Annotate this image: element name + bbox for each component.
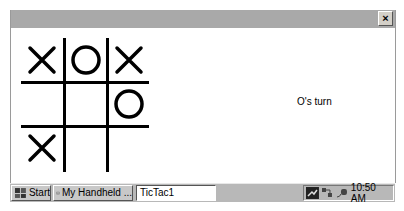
x-mark-icon <box>27 45 57 75</box>
handheld-label: My Handheld ... <box>62 186 132 200</box>
clock: 10:50 AM <box>351 182 393 204</box>
o-mark-icon <box>70 44 102 76</box>
app-window: × O's turn <box>10 10 396 183</box>
taskbar: Start My Handheld ... TicTac1 10:50 AM <box>10 183 395 202</box>
cell-1-0[interactable] <box>22 84 62 124</box>
handheld-icon <box>56 187 60 199</box>
start-button[interactable]: Start <box>11 185 51 201</box>
cell-0-1[interactable] <box>66 40 106 80</box>
start-label: Start <box>29 186 50 200</box>
cell-1-2[interactable] <box>109 84 149 124</box>
sync-icon[interactable] <box>321 187 334 199</box>
system-tray: 10:50 AM <box>303 185 394 201</box>
o-mark-icon <box>113 88 145 120</box>
start-flag-icon <box>14 187 27 199</box>
cell-1-1[interactable] <box>66 84 106 124</box>
my-handheld-button[interactable]: My Handheld ... <box>53 185 133 201</box>
x-mark-icon <box>114 45 144 75</box>
tic-tac-toe-board <box>21 38 149 172</box>
cell-2-2[interactable] <box>109 128 149 168</box>
cell-0-0[interactable] <box>22 40 62 80</box>
power-icon[interactable] <box>336 187 349 199</box>
cell-0-2[interactable] <box>109 40 149 80</box>
turn-status: O's turn <box>297 96 332 107</box>
cell-2-0[interactable] <box>22 128 62 168</box>
title-bar: × <box>11 10 395 28</box>
active-app-button[interactable]: TicTac1 <box>136 185 216 201</box>
network-icon[interactable] <box>306 187 319 199</box>
x-mark-icon <box>27 133 57 163</box>
close-button[interactable]: × <box>378 11 393 26</box>
cell-2-1[interactable] <box>66 128 106 168</box>
